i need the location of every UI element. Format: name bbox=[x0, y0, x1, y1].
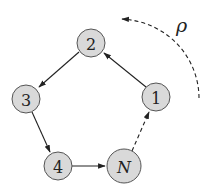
rho-label: ρ bbox=[175, 14, 188, 36]
node-N-label: N bbox=[116, 158, 132, 177]
node-3: 3 bbox=[12, 85, 40, 113]
node-4-label: 4 bbox=[53, 158, 63, 177]
edge-N-to-1 bbox=[132, 112, 149, 151]
node-2: 2 bbox=[77, 29, 105, 57]
edge-3-to-4 bbox=[32, 112, 50, 152]
node-4: 4 bbox=[44, 152, 72, 180]
edge-2-to-3 bbox=[39, 52, 79, 87]
cycle-diagram: ρ 1 2 3 4 N bbox=[0, 0, 211, 193]
node-3-label: 3 bbox=[21, 91, 31, 110]
node-1: 1 bbox=[142, 83, 170, 111]
node-2-label: 2 bbox=[86, 35, 96, 54]
node-1-label: 1 bbox=[151, 89, 161, 108]
node-N: N bbox=[107, 149, 141, 183]
edge-1-to-2 bbox=[104, 53, 146, 87]
